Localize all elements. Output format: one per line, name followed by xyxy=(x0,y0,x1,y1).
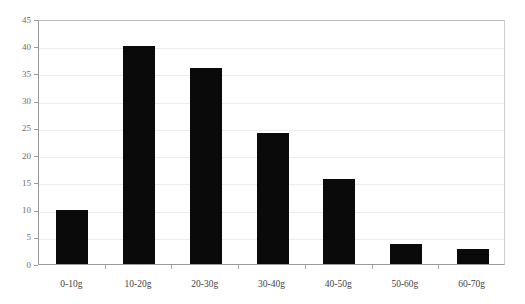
y-axis-tick xyxy=(34,183,38,184)
y-axis-tick xyxy=(34,265,38,266)
bar[interactable] xyxy=(323,179,355,264)
x-axis-tick xyxy=(372,265,373,269)
y-axis-tick xyxy=(34,102,38,103)
gridline xyxy=(39,130,504,131)
gridline xyxy=(39,75,504,76)
x-axis-tick xyxy=(171,265,172,269)
y-axis-tick xyxy=(34,156,38,157)
y-axis-tick-label: 10 xyxy=(3,206,31,215)
bar-chart: 051015202530354045 0-10g10-20g20-30g30-4… xyxy=(0,0,525,304)
gridline xyxy=(39,48,504,49)
y-axis-tick xyxy=(34,129,38,130)
x-axis-tick-label: 60-70g xyxy=(432,279,512,290)
x-axis-tick xyxy=(238,265,239,269)
plot-area xyxy=(38,20,505,265)
chart-title xyxy=(0,0,525,2)
y-axis-tick-label: 20 xyxy=(3,152,31,161)
gridline xyxy=(39,103,504,104)
bar[interactable] xyxy=(190,68,222,264)
bar[interactable] xyxy=(56,210,88,264)
y-axis-tick-label: 30 xyxy=(3,97,31,106)
y-axis: 051015202530354045 xyxy=(0,0,31,304)
y-axis-tick xyxy=(34,238,38,239)
y-axis-tick-label: 25 xyxy=(3,124,31,133)
y-axis-tick xyxy=(34,47,38,48)
y-axis-tick-label: 15 xyxy=(3,179,31,188)
x-axis-tick xyxy=(305,265,306,269)
x-axis-tick xyxy=(105,265,106,269)
bar[interactable] xyxy=(257,133,289,264)
y-axis-tick-label: 0 xyxy=(3,261,31,270)
y-axis-tick-label: 35 xyxy=(3,70,31,79)
bar[interactable] xyxy=(457,249,489,264)
x-axis-tick xyxy=(438,265,439,269)
y-axis-tick xyxy=(34,74,38,75)
y-axis-tick-label: 45 xyxy=(3,16,31,25)
y-axis-tick-label: 5 xyxy=(3,233,31,242)
bar[interactable] xyxy=(390,244,422,264)
bar[interactable] xyxy=(123,46,155,264)
y-axis-tick xyxy=(34,211,38,212)
y-axis-tick-label: 40 xyxy=(3,43,31,52)
y-axis-tick xyxy=(34,20,38,21)
